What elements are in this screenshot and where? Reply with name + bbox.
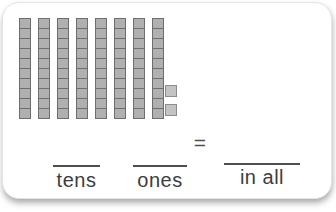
ten-rod [57, 18, 69, 119]
ten-rod [38, 18, 50, 119]
ten-unit-square [57, 108, 69, 119]
worksheet-card: = tens ones in all [2, 2, 332, 199]
ten-unit-square [19, 108, 31, 119]
ten-unit-square [114, 108, 126, 119]
in-all-label: in all [221, 166, 303, 189]
ten-unit-square [152, 108, 164, 119]
ten-rod [19, 18, 31, 119]
ten-rod [95, 18, 107, 119]
ten-rod [152, 18, 164, 119]
tens-blocks [19, 18, 164, 119]
ten-unit-square [38, 108, 50, 119]
ten-rod [76, 18, 88, 119]
tens-answer-blank[interactable] [53, 165, 100, 167]
ten-unit-square [95, 108, 107, 119]
ten-unit-square [76, 108, 88, 119]
one-unit-square [165, 85, 177, 97]
worksheet-stage: = tens ones in all [0, 0, 336, 212]
ones-answer-blank[interactable] [133, 165, 187, 167]
ten-unit-square [133, 108, 145, 119]
ones-blocks [165, 85, 177, 116]
ten-rod [133, 18, 145, 119]
ten-rod [114, 18, 126, 119]
ones-label: ones [129, 169, 191, 192]
equals-sign: = [189, 131, 211, 155]
tens-label: tens [49, 169, 104, 192]
one-unit-square [165, 104, 177, 116]
in-all-answer-blank[interactable] [224, 163, 300, 165]
